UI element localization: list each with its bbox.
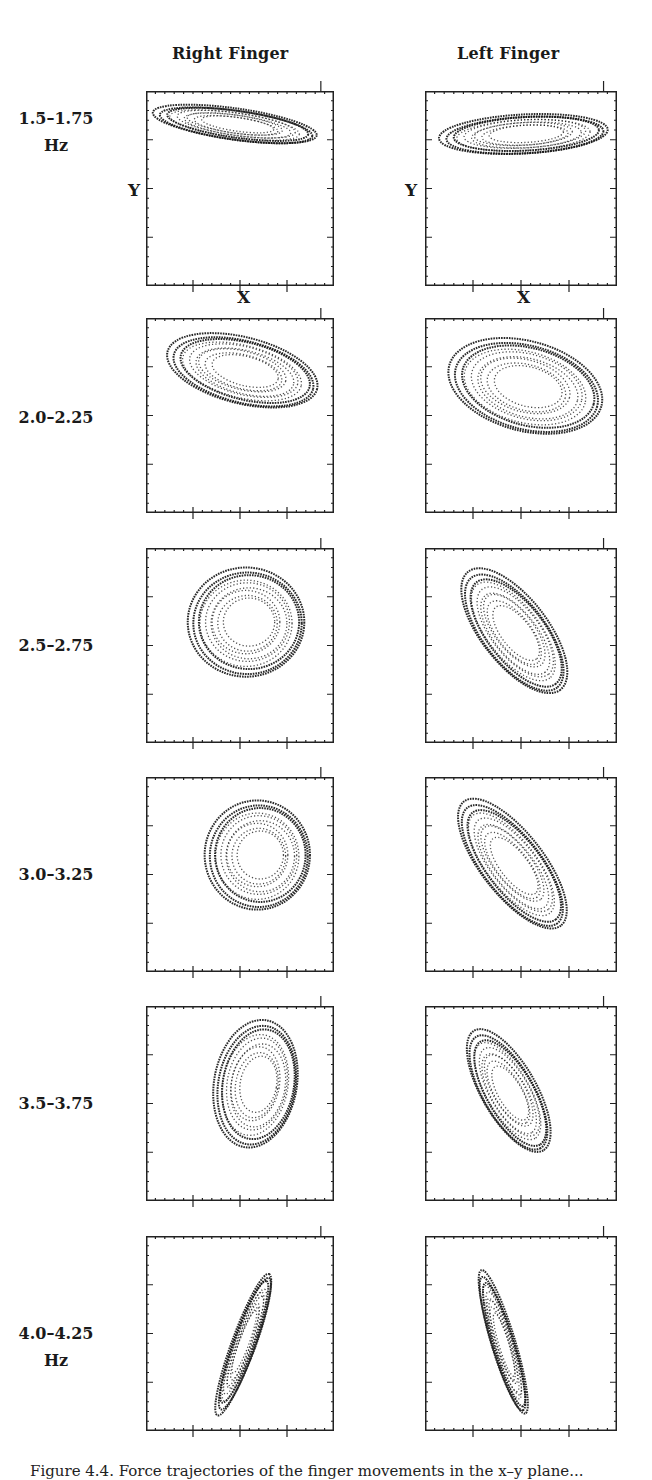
- row-label-5-freq: 3.5–3.75: [0, 1090, 112, 1117]
- row-label-6-freq: 4.0–4.25: [0, 1320, 112, 1347]
- x-axis-label-right: X: [237, 287, 250, 307]
- row-label-5: 3.5–3.75: [0, 1090, 112, 1117]
- trajectory-panel-left-6: [425, 1236, 617, 1431]
- y-axis-label-right: Y: [128, 180, 140, 200]
- trajectory-left-5: [451, 1017, 567, 1164]
- row-label-6-unit: Hz: [0, 1347, 112, 1374]
- row-label-6: 4.0–4.25 Hz: [0, 1320, 112, 1374]
- trajectory-right-3: [188, 568, 305, 677]
- x-axis-label-left: X: [517, 287, 530, 307]
- row-label-3-freq: 2.5–2.75: [0, 632, 112, 659]
- trajectory-right-5: [204, 1013, 308, 1154]
- trajectory-panel-left-2: [425, 318, 617, 513]
- trajectory-panel-right-4: [146, 777, 334, 972]
- trajectory-right-1: [151, 97, 319, 151]
- row-label-4-freq: 3.0–3.25: [0, 861, 112, 888]
- trajectory-right-6: [207, 1270, 281, 1419]
- row-label-2-freq: 2.0–2.25: [0, 404, 112, 431]
- trajectory-left-3: [442, 551, 586, 710]
- trajectory-panel-right-2: [146, 318, 334, 513]
- row-label-2: 2.0–2.25: [0, 404, 112, 431]
- column-title-right-finger: Right Finger: [172, 44, 288, 63]
- trajectory-right-2: [159, 319, 325, 421]
- trajectory-panel-left-1: [425, 91, 617, 286]
- trajectory-panel-right-3: [146, 548, 334, 743]
- row-label-3: 2.5–2.75: [0, 632, 112, 659]
- row-label-1-unit: Hz: [0, 132, 112, 159]
- trajectory-left-4: [439, 782, 585, 944]
- y-axis-label-left: Y: [405, 180, 417, 200]
- figure-caption: Figure 4.4. Force trajectories of the fi…: [30, 1462, 584, 1480]
- trajectory-panel-left-3: [425, 548, 617, 743]
- trajectory-panel-right-1: [146, 91, 334, 286]
- trajectory-panel-right-6: [146, 1236, 334, 1431]
- row-label-1-freq: 1.5–1.75: [0, 105, 112, 132]
- row-label-4: 3.0–3.25: [0, 861, 112, 888]
- trajectory-right-4: [205, 800, 310, 909]
- row-label-1: 1.5–1.75 Hz: [0, 105, 112, 159]
- trajectory-panel-right-5: [146, 1006, 334, 1201]
- column-title-left-finger: Left Finger: [457, 44, 559, 63]
- trajectory-panel-left-4: [425, 777, 617, 972]
- trajectory-left-6: [470, 1267, 537, 1417]
- trajectory-left-2: [438, 322, 613, 449]
- trajectory-panel-left-5: [425, 1006, 617, 1201]
- trajectory-left-1: [438, 110, 609, 158]
